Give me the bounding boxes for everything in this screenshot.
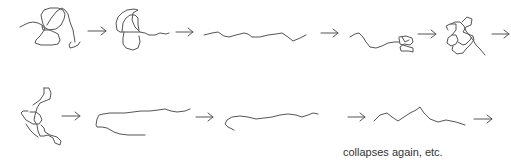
caption-collapses-again: collapses again, etc. <box>343 146 443 158</box>
right-arrow-icon <box>492 30 509 38</box>
state-8-extended-chain <box>225 113 318 130</box>
right-arrow-icon <box>474 115 492 123</box>
right-arrow-icon <box>348 113 365 121</box>
state-3-extended-chain <box>204 32 306 41</box>
right-arrow-icon <box>321 29 338 37</box>
state-1-tangled-coil <box>20 8 80 48</box>
state-4-partially-collapsed-chain <box>350 33 413 52</box>
right-arrow-icon <box>88 27 106 35</box>
state-6-elongated-loop <box>21 88 61 145</box>
state-7-extended-chain <box>96 109 190 135</box>
right-arrow-icon <box>62 112 80 120</box>
right-arrow-icon <box>196 113 213 121</box>
state-5-tangled-coil <box>446 17 485 55</box>
right-arrow-icon <box>418 30 436 38</box>
state-9-zigzag-chain <box>374 107 465 125</box>
state-2-compact-globule <box>116 9 169 50</box>
folding-sequence-diagram <box>0 0 511 162</box>
right-arrow-icon <box>176 28 193 36</box>
